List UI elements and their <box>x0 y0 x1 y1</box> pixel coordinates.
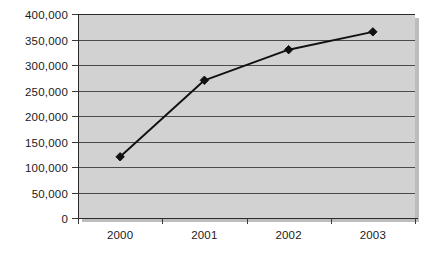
y-axis-tick-label: 350,000 <box>25 35 68 47</box>
x-axis-tick-label: 2000 <box>107 229 133 241</box>
x-axis-tick-label: 2003 <box>360 229 386 241</box>
y-axis-tick-label: 300,000 <box>25 60 68 72</box>
y-axis-tick-label: 150,000 <box>25 137 68 149</box>
y-axis-tick-label: 0 <box>61 213 68 225</box>
y-axis-tick-label: 200,000 <box>25 111 68 123</box>
x-axis-tick-label: 2002 <box>275 229 301 241</box>
chart-canvas: 050,000100,000150,000200,000250,000300,0… <box>0 0 443 262</box>
x-axis-tick-label: 2001 <box>191 229 217 241</box>
y-axis-tick-marks <box>72 15 78 219</box>
y-axis-tick-label: 100,000 <box>25 162 68 174</box>
y-axis-tick-label: 250,000 <box>25 86 68 98</box>
y-axis-tick-label: 400,000 <box>25 9 68 21</box>
y-axis-tick-labels: 050,000100,000150,000200,000250,000300,0… <box>25 9 68 225</box>
y-axis-tick-label: 50,000 <box>32 188 68 200</box>
x-axis-tick-labels: 2000200120022003 <box>107 229 386 241</box>
line-chart: 050,000100,000150,000200,000250,000300,0… <box>0 0 443 262</box>
